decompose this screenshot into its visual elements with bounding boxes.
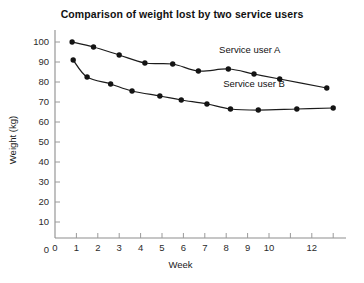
- x-axis-tick-label: 8: [224, 242, 229, 253]
- x-axis-tick-label: 12: [307, 242, 318, 253]
- data-point: [170, 61, 175, 66]
- data-point: [108, 81, 113, 86]
- x-axis-tick-label: 6: [181, 242, 186, 253]
- x-axis-tick-label: 0: [52, 242, 57, 253]
- y-axis-tick-label: 40: [38, 156, 49, 167]
- data-point: [226, 66, 231, 71]
- data-point: [142, 60, 147, 65]
- data-point: [69, 39, 74, 44]
- y-axis-ticks-group: 0102030405060708090100: [33, 36, 60, 255]
- x-axis-tick-label: 4: [138, 242, 143, 253]
- x-axis-title: Week: [168, 259, 192, 270]
- line-chart-plot: 0102030405060708090100 01234567891012 Se…: [0, 0, 364, 283]
- data-point: [70, 57, 75, 62]
- y-axis-title: Weight (kg): [7, 116, 18, 164]
- y-axis-tick-label: 80: [38, 76, 49, 87]
- y-axis-tick-label: 70: [38, 96, 49, 107]
- chart-container: Comparison of weight lost by two service…: [0, 0, 364, 283]
- y-axis-tick-label: 10: [38, 216, 49, 227]
- data-point: [251, 71, 256, 76]
- axes-group: [55, 30, 346, 238]
- data-point: [324, 85, 329, 90]
- data-point: [84, 74, 89, 79]
- data-point: [91, 44, 96, 49]
- data-point: [331, 105, 336, 110]
- y-axis-tick-label: 0: [44, 244, 49, 255]
- x-axis-tick-label: 10: [264, 242, 275, 253]
- data-point: [117, 52, 122, 57]
- data-point: [294, 106, 299, 111]
- y-axis-tick-label: 30: [38, 176, 49, 187]
- y-axis-tick-label: 100: [33, 36, 49, 47]
- x-axis-ticks-group: 01234567891012: [52, 233, 333, 253]
- y-axis-tick-label: 90: [38, 56, 49, 67]
- x-axis-tick-label: 5: [159, 242, 164, 253]
- x-axis-tick-label: 7: [202, 242, 207, 253]
- data-point: [157, 93, 162, 98]
- data-point: [179, 97, 184, 102]
- x-axis-tick-label: 2: [95, 242, 100, 253]
- data-point: [204, 101, 209, 106]
- data-point: [256, 107, 261, 112]
- x-axis-tick-label: 1: [74, 242, 79, 253]
- y-axis-tick-label: 20: [38, 196, 49, 207]
- series-inline-label: Service user B: [223, 78, 285, 89]
- x-axis-tick-label: 9: [245, 242, 250, 253]
- series-line-service-user-a: [72, 42, 327, 88]
- y-axis-tick-label: 50: [38, 136, 49, 147]
- data-point: [228, 106, 233, 111]
- x-axis-tick-label: 3: [117, 242, 122, 253]
- data-series-group: [69, 39, 335, 112]
- series-inline-label: Service user A: [219, 44, 281, 55]
- data-point: [196, 68, 201, 73]
- y-axis-tick-label: 60: [38, 116, 49, 127]
- data-point: [129, 88, 134, 93]
